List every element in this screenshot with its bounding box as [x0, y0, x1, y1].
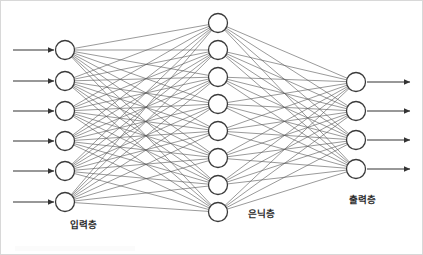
edge-input-hidden — [72, 57, 212, 196]
edge-hidden-output — [227, 170, 346, 184]
output-layer-label: 출력층 — [349, 194, 376, 205]
edge-hidden-output — [227, 172, 347, 209]
node-hidden-4 — [209, 95, 228, 114]
node-hidden-5 — [209, 122, 228, 141]
edge-hidden-output — [227, 27, 348, 79]
network-nodes — [56, 14, 366, 222]
edge-input-hidden — [74, 25, 208, 49]
node-input-3 — [56, 102, 75, 121]
edge-input-hidden — [74, 104, 208, 110]
edge-hidden-output — [227, 81, 348, 136]
edge-input-hidden — [74, 159, 208, 170]
edge-hidden-output — [226, 144, 347, 207]
edge-hidden-output — [226, 117, 349, 207]
node-input-2 — [56, 72, 75, 91]
node-hidden-3 — [209, 68, 228, 87]
node-hidden-1 — [209, 14, 228, 33]
caption-strip — [15, 246, 135, 251]
edge-input-hidden — [74, 53, 209, 101]
node-input-5 — [56, 162, 75, 181]
hidden-layer-label: 은닉층 — [248, 208, 275, 219]
node-output-3 — [347, 131, 366, 150]
edge-input-hidden — [74, 26, 209, 77]
edge-hidden-output — [227, 77, 346, 81]
node-input-6 — [56, 193, 75, 212]
edge-input-hidden — [72, 56, 210, 165]
node-hidden-2 — [209, 41, 228, 60]
edge-input-hidden — [74, 82, 208, 102]
node-output-2 — [347, 102, 366, 121]
edge-input-hidden — [74, 81, 209, 138]
edge-input-hidden — [74, 114, 209, 155]
edge-hidden-output — [227, 159, 346, 169]
node-hidden-8 — [209, 203, 228, 222]
node-hidden-6 — [209, 149, 228, 168]
edge-hidden-output — [227, 52, 347, 80]
edge-hidden-output — [227, 54, 348, 107]
node-output-1 — [347, 73, 366, 92]
edge-hidden-output — [225, 29, 349, 134]
edge-input-hidden — [74, 52, 208, 76]
edge-input-hidden — [74, 112, 208, 130]
edge-input-hidden — [74, 133, 209, 168]
network-canvas: 입력층 은닉층 출력층 — [1, 1, 423, 255]
edge-hidden-output — [227, 108, 348, 165]
edge-hidden-output — [226, 115, 347, 180]
node-input-1 — [56, 41, 75, 60]
edge-input-hidden — [73, 116, 210, 207]
neural-network-diagram: 입력층 은닉층 출력층 — [0, 0, 423, 255]
input-layer-label: 입력층 — [70, 219, 97, 230]
edge-hidden-output — [227, 84, 346, 103]
node-input-4 — [56, 132, 75, 151]
edge-hidden-output — [227, 85, 347, 128]
node-hidden-7 — [209, 176, 228, 195]
node-output-4 — [347, 160, 366, 179]
